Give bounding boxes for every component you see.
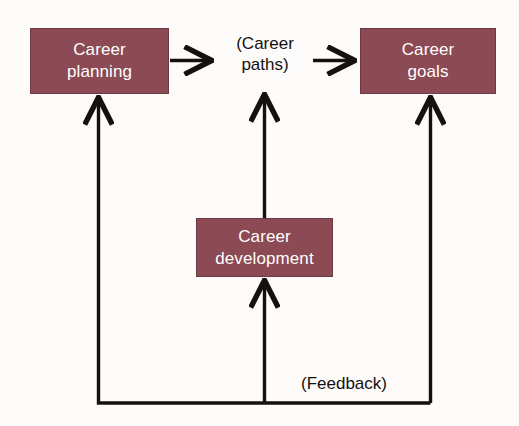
career-planning-diagram: Career planning (Career paths) Career go… xyxy=(0,0,519,426)
node-career-development[interactable]: Career development xyxy=(196,218,333,277)
node-career-paths-label: (Career paths) xyxy=(221,33,309,76)
feedback-label: (Feedback) xyxy=(301,373,421,394)
node-career-planning[interactable]: Career planning xyxy=(30,28,169,94)
node-career-goals[interactable]: Career goals xyxy=(360,28,496,94)
